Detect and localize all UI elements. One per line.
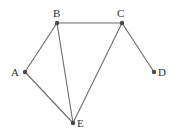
node-label: A <box>11 66 19 78</box>
node-a: A <box>11 66 27 78</box>
edges-group <box>25 23 154 123</box>
edge-c-d <box>122 23 154 72</box>
node-dot-icon <box>23 70 27 74</box>
edge-c-e <box>73 23 122 123</box>
node-label: B <box>53 7 60 19</box>
graph-diagram: ABCDE <box>0 0 179 130</box>
node-label: E <box>77 117 84 129</box>
node-dot-icon <box>71 121 75 125</box>
nodes-group: ABCDE <box>11 7 166 129</box>
node-label: C <box>117 7 124 19</box>
node-d: D <box>152 66 166 78</box>
node-label: D <box>158 66 166 78</box>
node-dot-icon <box>55 21 59 25</box>
node-dot-icon <box>120 21 124 25</box>
node-dot-icon <box>152 70 156 74</box>
edge-a-b <box>25 23 57 72</box>
